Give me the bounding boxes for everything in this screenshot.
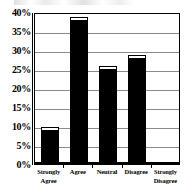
bar [99, 69, 117, 164]
bar-series [35, 14, 179, 164]
scan-artifact [14, 0, 134, 5]
x-axis-category-label-line: Disagree [147, 177, 184, 186]
x-axis-baseline [35, 162, 179, 164]
bar-slot [99, 14, 117, 164]
bar [41, 130, 59, 164]
bar [128, 58, 146, 164]
x-axis-category-labels: StronglyAgreeAgreeNeutralDisagreeStrongl… [34, 168, 180, 196]
x-axis-category-label: StronglyDisagree [147, 168, 184, 185]
bar-slot [70, 14, 88, 164]
bar-top-cap [41, 127, 59, 130]
x-axis-category-label-line: Strongly [147, 168, 184, 177]
y-axis-tick-label: 35% [12, 27, 31, 37]
y-axis-tick-label: 30% [12, 46, 31, 56]
bar-slot [157, 14, 175, 164]
bar [70, 20, 88, 164]
y-axis-tick-label: 25% [12, 65, 31, 75]
bar-chart: 40%35%30%25%20%15%10%5%0% StronglyAgreeA… [0, 0, 192, 196]
bar-slot [128, 14, 146, 164]
bar-top-cap [128, 55, 146, 58]
y-axis-tick-label: 20% [12, 84, 31, 94]
x-axis-category-label-line: Agree [30, 177, 67, 186]
y-axis-tick-label: 5% [17, 141, 31, 151]
y-axis-tick-label: 0% [17, 160, 31, 170]
bar-slot [41, 14, 59, 164]
y-axis-tick-label: 10% [12, 122, 31, 132]
y-axis-tick-labels: 40%35%30%25%20%15%10%5%0% [0, 13, 33, 165]
y-axis-tick-label: 15% [12, 103, 31, 113]
plot-area [34, 13, 180, 165]
bar-top-cap [99, 66, 117, 69]
y-axis-tick-label: 40% [12, 8, 31, 18]
bar-top-cap [70, 17, 88, 20]
y-axis-spine [32, 13, 33, 165]
